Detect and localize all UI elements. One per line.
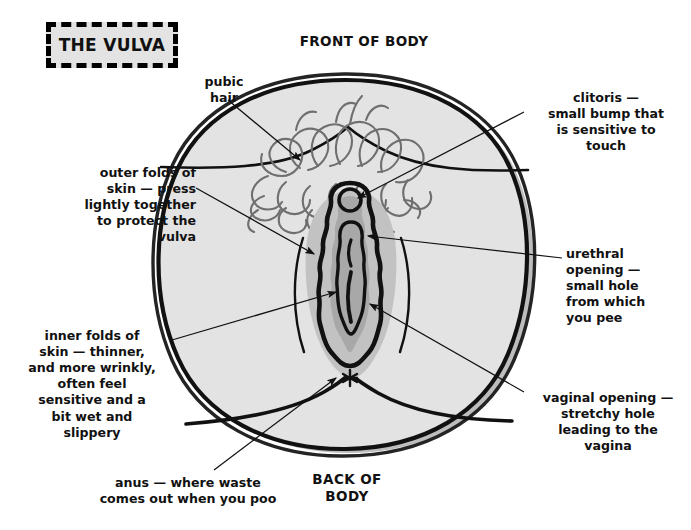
back-of-body-line2: BODY	[292, 488, 402, 505]
label-pubic-hair: pubic hair	[178, 74, 270, 106]
label-vaginal-opening: vaginal opening — stretchy hole leading …	[528, 390, 688, 454]
back-of-body-line1: BACK OF	[292, 471, 402, 488]
front-of-body-label: FRONT OF BODY	[284, 33, 444, 50]
label-clitoris: clitoris — small bump that is sensitive …	[528, 90, 684, 154]
back-of-body-label: BACK OF BODY	[292, 471, 402, 505]
label-urethral-opening: urethral opening — small hole from which…	[566, 246, 686, 327]
vulva-diagram-page: THE VULVA FRONT OF BODY BACK OF BODY pub…	[0, 0, 691, 530]
label-outer-folds: outer folds of skin — press lightly toge…	[26, 165, 196, 246]
title-badge: THE VULVA	[46, 22, 178, 68]
page-title: THE VULVA	[59, 35, 166, 55]
label-inner-folds: inner folds of skin — thinner, and more …	[14, 328, 170, 441]
label-anus: anus — where waste comes out when you po…	[70, 475, 306, 507]
